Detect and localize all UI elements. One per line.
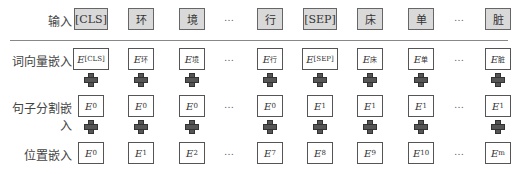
plus-icon (313, 120, 327, 134)
position-embedding-label: 位置嵌入 (2, 146, 72, 163)
plus-icon (263, 120, 277, 134)
plus-icon (491, 120, 505, 134)
ellipsis: … (449, 52, 469, 63)
input-token-box: [CLS] (74, 8, 108, 30)
token-embedding-box: E[SEP] (302, 48, 338, 70)
position-embedding-box: E2 (179, 142, 205, 164)
ellipsis: … (219, 12, 239, 23)
segment-embedding-box: E1 (357, 95, 383, 117)
position-embedding-box: E0 (78, 142, 104, 164)
ellipsis: … (219, 99, 239, 110)
position-embedding-box: Em (485, 142, 511, 164)
ellipsis: … (219, 146, 239, 157)
segment-embedding-label: 句子分割嵌入 (2, 99, 72, 133)
segment-embedding-box: E0 (128, 95, 154, 117)
position-embedding-box: E8 (307, 142, 333, 164)
segment-embedding-box: E1 (307, 95, 333, 117)
ellipsis: … (219, 52, 239, 63)
segment-embedding-box: E0 (257, 95, 283, 117)
token-embedding-box: E单 (408, 48, 434, 70)
input-label: 输入 (2, 12, 72, 29)
plus-icon (313, 73, 327, 87)
plus-icon (363, 73, 377, 87)
plus-icon (185, 120, 199, 134)
token-embedding-box: E境 (179, 48, 205, 70)
input-token-box: 床 (357, 8, 383, 30)
input-token-box: 单 (408, 8, 434, 30)
position-embedding-box: E1 (128, 142, 154, 164)
plus-icon (363, 120, 377, 134)
plus-icon (491, 73, 505, 87)
divider (10, 40, 508, 41)
position-embedding-box: E10 (408, 142, 434, 164)
token-embedding-box: E[CLS] (73, 48, 109, 70)
plus-icon (134, 120, 148, 134)
ellipsis: … (449, 99, 469, 110)
input-token-box: 境 (179, 8, 205, 30)
token-embedding-box: E脏 (485, 48, 511, 70)
plus-icon (185, 73, 199, 87)
segment-embedding-box: E0 (179, 95, 205, 117)
segment-embedding-box: E1 (485, 95, 511, 117)
plus-icon (134, 73, 148, 87)
position-embedding-box: E7 (257, 142, 283, 164)
token-embedding-label: 词向量嵌入 (2, 52, 72, 69)
ellipsis: … (449, 12, 469, 23)
plus-icon (414, 73, 428, 87)
segment-embedding-box: E0 (78, 95, 104, 117)
position-embedding-box: E9 (357, 142, 383, 164)
plus-icon (263, 73, 277, 87)
token-embedding-box: E行 (257, 48, 283, 70)
plus-icon (414, 120, 428, 134)
input-token-box: [SEP] (303, 8, 337, 30)
plus-icon (84, 73, 98, 87)
token-embedding-box: E环 (128, 48, 154, 70)
input-token-box: 脏 (485, 8, 511, 30)
input-token-box: 环 (128, 8, 154, 30)
ellipsis: … (449, 146, 469, 157)
segment-embedding-box: E1 (408, 95, 434, 117)
token-embedding-box: E床 (357, 48, 383, 70)
input-token-box: 行 (257, 8, 283, 30)
plus-icon (84, 120, 98, 134)
